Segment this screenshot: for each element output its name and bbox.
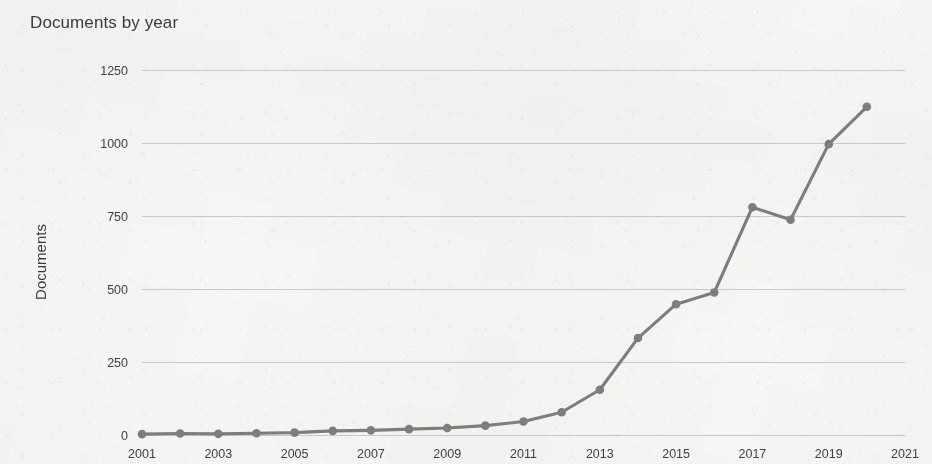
data-point-2003 [214, 430, 223, 439]
x-tick-label-2003: 2003 [204, 447, 232, 461]
x-tick-label-2005: 2005 [281, 447, 309, 461]
x-tick-label-2007: 2007 [357, 447, 385, 461]
y-tick-label-500: 500 [107, 283, 128, 297]
y-axis-title: Documents [32, 224, 49, 300]
data-point-2010 [481, 421, 490, 430]
data-point-2002 [176, 429, 185, 438]
x-tick-label-2011: 2011 [510, 447, 537, 461]
x-tick-label-2019: 2019 [815, 447, 843, 461]
series-line-documents [142, 107, 867, 434]
x-tick-label-2009: 2009 [433, 447, 461, 461]
y-tick-label-0: 0 [121, 429, 128, 443]
series-markers-group [138, 102, 871, 438]
data-point-2015 [672, 300, 681, 309]
y-tick-label-1000: 1000 [100, 137, 128, 151]
data-point-2016 [710, 288, 719, 297]
data-point-2014 [634, 334, 643, 343]
y-tick-label-250: 250 [107, 356, 128, 370]
data-point-2011 [519, 417, 528, 426]
x-axis-tick-labels: 2001200320052007200920112013201520172019… [128, 447, 919, 461]
line-chart: 125010007505002500 200120032005200720092… [0, 0, 932, 464]
y-tick-label-1250: 1250 [100, 64, 128, 78]
x-tick-label-2015: 2015 [662, 447, 690, 461]
data-point-2005 [290, 428, 299, 437]
data-point-2006 [328, 427, 337, 436]
data-point-2013 [596, 385, 605, 394]
x-tick-label-2021: 2021 [891, 447, 919, 461]
data-point-2020 [863, 102, 872, 111]
x-tick-label-2017: 2017 [738, 447, 766, 461]
y-tick-label-750: 750 [107, 210, 128, 224]
y-axis-tick-labels: 125010007505002500 [100, 64, 128, 443]
data-point-2004 [252, 429, 261, 438]
data-point-2018 [786, 216, 795, 225]
data-point-2007 [367, 426, 376, 435]
data-point-2017 [748, 203, 757, 212]
x-tick-label-2013: 2013 [586, 447, 614, 461]
data-point-2008 [405, 425, 414, 434]
data-point-2019 [824, 140, 833, 149]
data-point-2001 [138, 430, 147, 439]
data-point-2009 [443, 424, 452, 433]
data-point-2012 [557, 408, 566, 417]
gridlines-group [142, 70, 905, 435]
x-tick-label-2001: 2001 [128, 447, 156, 461]
